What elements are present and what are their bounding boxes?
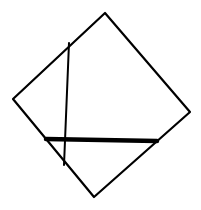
diagram-canvas [0, 0, 201, 210]
tilted-square [13, 13, 190, 197]
vertical-line [64, 43, 69, 165]
thick-horizontal-line [46, 139, 157, 141]
